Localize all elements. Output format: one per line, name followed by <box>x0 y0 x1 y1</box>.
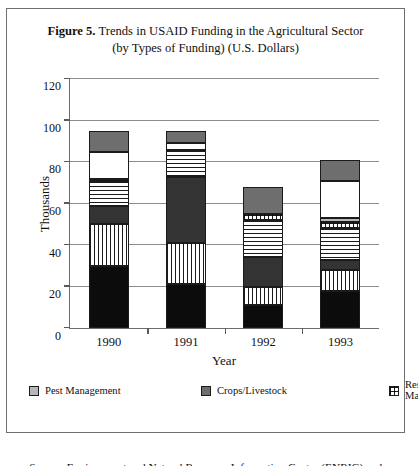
bar-segment[interactable] <box>320 270 360 291</box>
x-tick-label: 1991 <box>173 335 198 350</box>
y-tick-mark <box>64 285 70 286</box>
bar-segment[interactable] <box>166 243 206 285</box>
bar-segment[interactable] <box>243 187 283 214</box>
figure-frame: Figure 5. Trends in USAID Funding in the… <box>6 8 405 433</box>
bar-segment[interactable] <box>320 218 360 222</box>
bar-segment[interactable] <box>320 160 360 181</box>
bar-segment[interactable] <box>89 206 129 225</box>
bar-group[interactable] <box>320 79 360 328</box>
x-tick-mark <box>225 328 226 334</box>
bar-segment[interactable] <box>320 228 360 259</box>
y-tick-mark <box>64 202 70 203</box>
bar-segment[interactable] <box>89 224 129 266</box>
stacked-bar[interactable] <box>320 79 360 328</box>
bar-segment[interactable] <box>166 143 206 149</box>
x-tick-label: 1992 <box>251 335 276 350</box>
bar-group[interactable] <box>89 79 129 328</box>
bar-segment[interactable] <box>320 222 360 228</box>
legend-item[interactable]: Crops/Livestock <box>201 386 389 397</box>
legend-label: Crops/Livestock <box>217 386 287 397</box>
bar-segment[interactable] <box>89 181 129 206</box>
bar-segment[interactable] <box>166 131 206 143</box>
bar-segment[interactable] <box>89 152 129 179</box>
legend-item[interactable]: Pest Management <box>29 386 201 397</box>
legend-swatch-icon <box>201 386 211 396</box>
legend-item[interactable]: Resource Management <box>389 380 418 401</box>
bar-segment[interactable] <box>243 220 283 257</box>
figure-title: Figure 5. Trends in USAID Funding in the… <box>7 23 404 56</box>
chart-legend: Pest ManagementCrops/LivestockResource M… <box>29 383 389 399</box>
legend-swatch-icon <box>389 386 399 396</box>
y-tick-mark <box>64 119 70 120</box>
source-note: Source: Environment and Natural Resource… <box>29 461 409 466</box>
source-text: Environment and Natural Resource Informa… <box>64 461 382 466</box>
x-axis-title: Year <box>212 353 236 369</box>
source-label: Source: <box>29 461 64 466</box>
x-tick-mark <box>147 328 148 334</box>
figure-title-line1: Trends in USAID Funding in the Agricultu… <box>96 24 364 38</box>
y-tick-mark <box>64 161 70 162</box>
bar-segment[interactable] <box>243 214 283 220</box>
bar-segment[interactable] <box>89 266 129 328</box>
bar-segment[interactable] <box>320 291 360 328</box>
stacked-bar[interactable] <box>89 79 129 328</box>
y-tick-mark <box>64 78 70 79</box>
chart-panel: Thousands 020406080100120199019911992199… <box>69 79 379 329</box>
bar-segment[interactable] <box>243 287 283 306</box>
stacked-bar[interactable] <box>243 79 283 328</box>
legend-label: Pest Management <box>45 386 121 397</box>
y-tick-mark <box>64 327 70 328</box>
bar-segment[interactable] <box>89 131 129 152</box>
bar-segment[interactable] <box>166 284 206 328</box>
plot-area: 0204060801001201990199119921993 <box>69 79 379 329</box>
x-tick-mark <box>302 328 303 334</box>
y-tick-mark <box>64 244 70 245</box>
bar-segment[interactable] <box>243 257 283 286</box>
bar-group[interactable] <box>243 79 283 328</box>
bar-segment[interactable] <box>243 305 283 328</box>
bar-segment[interactable] <box>89 179 129 181</box>
figure-title-line2: (by Types of Funding) (U.S. Dollars) <box>112 41 299 55</box>
bar-segment[interactable] <box>320 181 360 218</box>
figure-number: Figure 5. <box>47 24 95 38</box>
bar-segment[interactable] <box>320 260 360 270</box>
stacked-bar[interactable] <box>166 79 206 328</box>
bar-segment[interactable] <box>166 177 206 243</box>
x-tick-label: 1993 <box>328 335 353 350</box>
x-tick-label: 1990 <box>96 335 121 350</box>
bar-segment[interactable] <box>166 150 206 177</box>
bar-group[interactable] <box>166 79 206 328</box>
legend-swatch-icon <box>29 386 39 396</box>
legend-label: Resource Management <box>405 380 418 401</box>
